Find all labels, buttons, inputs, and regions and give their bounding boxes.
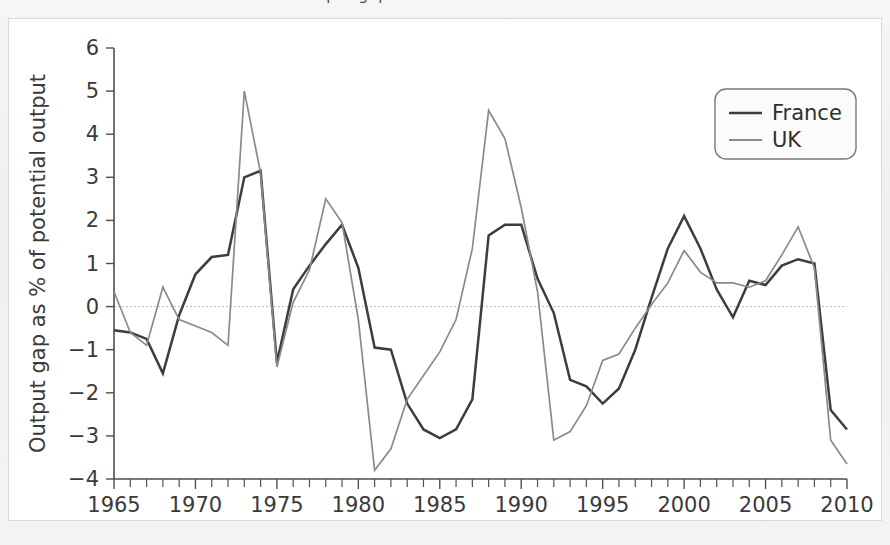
- y-tick-label: −1: [68, 338, 99, 362]
- cropped-caption-label: output gap: [300, 0, 388, 4]
- x-tick-label: 2000: [657, 493, 710, 517]
- x-axis-tick-labels: 1965197019751980198519901995200020052010: [87, 493, 873, 517]
- y-tick-label: 5: [86, 79, 99, 103]
- figure-plate: 1965197019751980198519901995200020052010…: [8, 18, 882, 521]
- x-tick-label: 1975: [250, 493, 303, 517]
- output-gap-line-chart: 1965197019751980198519901995200020052010…: [9, 19, 883, 522]
- y-tick-label: 0: [86, 295, 99, 319]
- figure-page: output gap 19651970197519801985199019952…: [0, 0, 890, 545]
- y-axis-title-text: Output gap as % of potential output: [26, 74, 50, 453]
- y-tick-label: 1: [86, 252, 99, 276]
- x-tick-label: 2005: [739, 493, 792, 517]
- x-tick-label: 1970: [169, 493, 222, 517]
- y-tick-label: −2: [68, 381, 99, 405]
- chart-legend[interactable]: FranceUK: [715, 89, 856, 159]
- legend-label-uk[interactable]: UK: [772, 128, 802, 152]
- y-tick-label: 3: [86, 165, 99, 189]
- x-tick-label: 1990: [494, 493, 547, 517]
- x-tick-label: 1965: [87, 493, 140, 517]
- legend-label-france[interactable]: France: [772, 101, 842, 125]
- y-tick-label: 4: [86, 122, 99, 146]
- cropped-caption-text: output gap: [0, 0, 890, 18]
- x-tick-label: 1980: [332, 493, 385, 517]
- y-axis-title: Output gap as % of potential output: [26, 74, 50, 453]
- x-tick-label: 1985: [413, 493, 466, 517]
- y-tick-label: 2: [86, 208, 99, 232]
- x-tick-label: 1995: [576, 493, 629, 517]
- series-line-france: [114, 171, 847, 438]
- x-tick-label: 2010: [820, 493, 873, 517]
- y-tick-label: −3: [68, 424, 99, 448]
- y-axis-tick-labels: −4−3−2−10123456: [68, 36, 99, 491]
- y-tick-label: −4: [68, 467, 99, 491]
- y-tick-label: 6: [86, 36, 99, 60]
